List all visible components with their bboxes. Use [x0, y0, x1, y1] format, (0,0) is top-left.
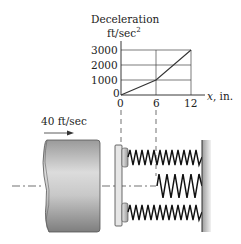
x-tick-12: 12 [184, 98, 197, 109]
velocity-label: 40 ft/sec [41, 116, 87, 127]
cylinder-body [43, 140, 100, 232]
y-tick-3000: 3000 [91, 45, 118, 56]
y-tick-2000: 2000 [91, 60, 118, 71]
chart-unit: ft/sec2 [107, 27, 141, 38]
x-axis-unit: , in. [213, 90, 233, 102]
x-tick-0: 0 [117, 98, 124, 109]
chart-title: Deceleration [91, 14, 159, 25]
x-tick-6: 6 [153, 98, 160, 109]
spring-middle [157, 174, 202, 198]
chart-unit-exp: 2 [136, 26, 140, 34]
x-axis-label: x, in. [207, 91, 233, 102]
chart-axes [121, 41, 205, 95]
y-tick-1000: 1000 [91, 75, 118, 86]
spring-cap-bottom [122, 203, 128, 222]
spring-top [128, 150, 202, 165]
buffer-plate [115, 145, 122, 226]
chart-grid [121, 50, 191, 95]
velocity-arrow [44, 131, 74, 136]
spring-bottom [128, 205, 202, 220]
chart-unit-base: ft/sec [107, 27, 136, 39]
spring-cap-top [122, 148, 128, 167]
fixed-wall [202, 140, 211, 232]
